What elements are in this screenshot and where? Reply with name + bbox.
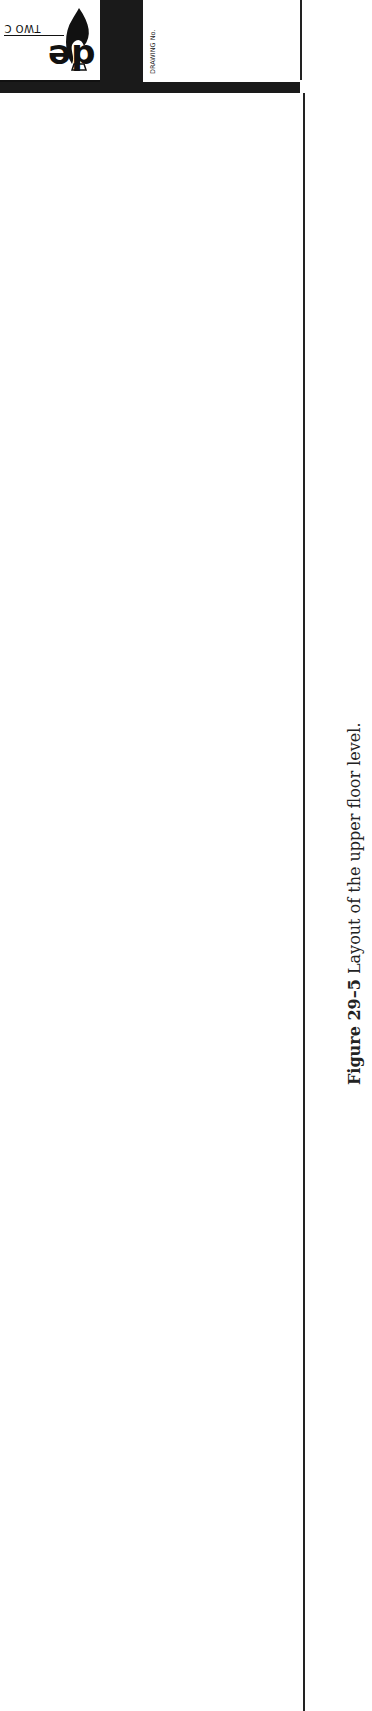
- figure-caption: Figure 29–5 Layout of the upper floor le…: [345, 723, 365, 1085]
- figure-number: Figure 29–5: [345, 979, 364, 1085]
- sheet-border-line: [303, 93, 305, 1711]
- title-block-black-band-vertical: [100, 0, 143, 93]
- drawing-number-label: DRAWING No.: [149, 30, 157, 74]
- logo-wordmark: de: [48, 40, 95, 74]
- drawing-number-box: DRAWING No.: [143, 0, 302, 80]
- logo-box: de TWO C: [0, 0, 100, 82]
- logo-subtitle: TWO C: [4, 23, 64, 36]
- caption-text: Layout of the upper floor level.: [345, 723, 364, 975]
- title-block-black-band-horizontal: [0, 82, 300, 93]
- logo-rotated: de TWO C: [0, 0, 100, 82]
